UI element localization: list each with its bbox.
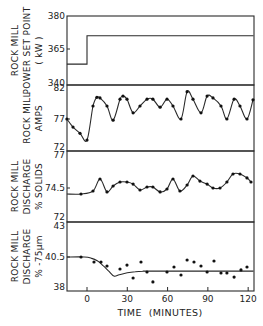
x-tick-label: 120 — [240, 294, 257, 304]
panel-amps: 827772ROCK MILLAMPS — [22, 83, 255, 152]
panel-power: 380365340ROCK MILLPOWER SET POINT( kW ) — [10, 6, 254, 94]
data-point — [206, 95, 209, 98]
data-point — [138, 188, 141, 191]
panel-fines: 4340.538ROCK MILLDISCHARGE% -75µm — [10, 221, 254, 292]
data-point — [211, 96, 214, 99]
y-tick-label: 43 — [54, 221, 65, 231]
data-point — [206, 270, 209, 273]
data-point — [225, 180, 228, 183]
y-tick-label: 40.5 — [45, 252, 65, 262]
data-point — [71, 126, 74, 129]
y-axis-label: DISCHARGE — [22, 158, 32, 214]
data-point — [171, 104, 174, 107]
data-point — [79, 255, 82, 258]
data-point — [145, 98, 148, 101]
y-tick-label: 74.5 — [45, 183, 65, 193]
data-point — [233, 276, 236, 279]
x-axis: 0306090120TIME (MINUTES) — [84, 287, 257, 318]
data-point — [125, 98, 128, 101]
data-point — [125, 180, 128, 183]
data-point — [191, 174, 194, 177]
series-line-power — [67, 36, 254, 64]
data-point — [105, 264, 108, 267]
data-point — [139, 260, 142, 263]
data-point — [165, 98, 168, 101]
data-point — [233, 98, 236, 101]
x-axis-title: TIME (MINUTES) — [116, 307, 202, 318]
data-point — [165, 187, 168, 190]
x-tick-label: 90 — [202, 294, 214, 304]
data-point — [118, 98, 121, 101]
data-point — [245, 265, 248, 268]
data-point — [186, 90, 189, 93]
data-point — [118, 180, 121, 183]
data-point — [105, 190, 108, 193]
data-point — [245, 176, 248, 179]
data-point — [186, 258, 189, 261]
y-axis-label: % -75µm — [34, 235, 44, 278]
data-point — [145, 270, 148, 273]
data-point — [91, 104, 94, 107]
data-point — [165, 270, 168, 273]
y-axis-label: % SOLIDS — [34, 163, 44, 210]
data-point — [225, 117, 228, 120]
data-point — [112, 184, 115, 187]
data-point — [132, 183, 135, 186]
data-point — [151, 185, 154, 188]
data-point — [198, 180, 201, 183]
y-tick-label: 365 — [48, 44, 65, 54]
data-point — [159, 106, 162, 109]
series-line-amps — [67, 91, 253, 141]
chart-figure: 380365340ROCK MILLPOWER SET POINT( kW )8… — [0, 0, 263, 326]
data-point — [98, 96, 101, 99]
data-point — [85, 139, 88, 142]
data-point — [79, 192, 82, 195]
data-point — [65, 117, 68, 120]
data-point — [199, 264, 202, 267]
data-point — [98, 177, 101, 180]
panel-frame — [67, 151, 254, 222]
data-point — [145, 185, 148, 188]
y-tick-label: 82 — [54, 83, 65, 93]
y-axis-label: AMPS — [34, 105, 44, 131]
y-axis-label: POWER SET POINT — [22, 6, 32, 94]
data-point — [238, 104, 241, 107]
data-point — [191, 98, 194, 101]
data-point — [179, 273, 182, 276]
data-point — [118, 267, 121, 270]
y-axis-label: ( kW ) — [34, 36, 44, 65]
data-point — [219, 104, 222, 107]
panel-frame — [67, 222, 254, 291]
y-axis-label: ROCK MILL — [22, 92, 32, 144]
data-point — [112, 119, 115, 122]
data-point — [206, 183, 209, 186]
y-tick-label: 380 — [48, 11, 65, 21]
data-point — [186, 183, 189, 186]
data-point — [199, 111, 202, 114]
data-point — [151, 280, 154, 283]
data-point — [238, 172, 241, 175]
data-point — [178, 189, 181, 192]
data-point — [99, 260, 102, 263]
data-point — [92, 260, 95, 263]
x-tick-label: 60 — [162, 294, 174, 304]
data-point — [245, 117, 248, 120]
data-point — [171, 177, 174, 180]
data-point — [212, 259, 215, 262]
data-point — [179, 117, 182, 120]
data-point — [211, 186, 214, 189]
data-point — [239, 268, 242, 271]
data-point — [231, 172, 234, 175]
panel-solids: 7774.572ROCK MILLDISCHARGE% SOLIDS — [10, 150, 254, 222]
data-point — [218, 186, 221, 189]
data-point — [172, 265, 175, 268]
data-point — [251, 98, 254, 101]
y-axis-label: DISCHARGE — [22, 228, 32, 284]
data-point — [132, 111, 135, 114]
data-point — [132, 276, 135, 279]
y-axis-label: ROCK MILL — [10, 25, 20, 77]
y-axis-label: ROCK MILL — [10, 231, 20, 283]
x-tick-label: 30 — [122, 294, 134, 304]
data-point — [121, 95, 124, 98]
data-point — [151, 98, 154, 101]
